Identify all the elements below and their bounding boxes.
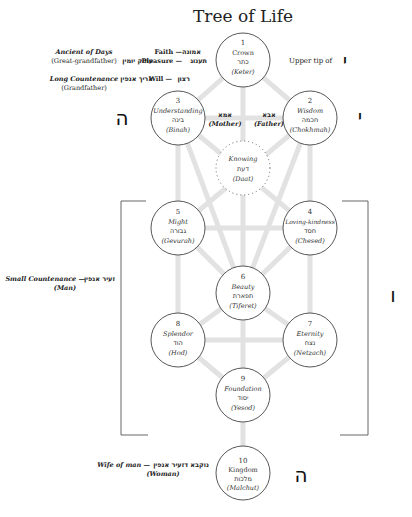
ancient-of-days-label: Ancient of Days [54,48,112,56]
sefirah-hebrew: יסוד [238,394,250,402]
sefirah-chesed[interactable]: 4 Loving-kindness חסד (Chesed) [283,201,337,255]
sefirah-hebrew: חכמה [302,116,318,124]
sefirah-hebrew: כתר [237,58,249,66]
man-label: (Man) [54,284,76,292]
sefirah-number: 7 [308,320,312,328]
sefirah-number: 9 [241,375,245,383]
sefirah-transliteration: (Gevurah) [161,237,195,245]
small-countenance-label: Small Countenance — [5,275,85,283]
sefirah-netzach[interactable]: 7 Eternity נצח (Netzach) [283,313,337,367]
mother-label: (Mother) [209,120,242,128]
small-countenance-hebrew-label: זעיר אנפין [84,275,116,283]
pleasure-hebrew-label: תענוג [190,57,207,65]
sefirah-name: Might [167,218,188,226]
sefirah-tiferet[interactable]: 6 Beauty תפארת (Tiferet) [216,266,270,320]
great-grandfather-label: (Great-grandfather) [51,57,117,65]
sefirah-transliteration: (Netzach) [294,349,327,357]
sefirah-number: 1 [241,39,245,47]
woman-label: (Woman) [146,470,179,478]
sefirah-name: Wisdom [297,107,323,115]
will-hebrew-label: רצון [177,75,190,83]
sefirah-daat[interactable]: Knowing דעת (Daat) [216,141,270,195]
left-bracket [121,201,148,435]
sefirah-hebrew: בינה [172,116,184,124]
sefirah-transliteration: (Tiferet) [229,302,257,310]
sefirah-name: Crown [232,49,254,57]
wife-of-man-label: Wife of man — [97,461,150,469]
sefirah-hod[interactable]: 8 Splendor הוד (Hod) [151,313,205,367]
diagram-title: Tree of Life [193,6,293,26]
sefirah-hebrew: נצח [305,339,316,347]
sefirah-name: Foundation [223,385,261,393]
upper-tip-label: Upper tip of [289,57,334,65]
wife-of-man-hebrew-label: נוקבא דזעיר אנפין [153,461,209,469]
sefirah-transliteration: (Daat) [233,175,254,183]
sefirah-transliteration: (Keter) [231,68,255,76]
sefirah-transliteration: (Chokhmah) [290,126,331,134]
will-label: Will — [148,75,173,83]
sefirah-keter[interactable]: 1 Crown כתר (Keter) [216,33,270,87]
right-bracket [340,201,368,435]
letter-yud-chokhmah: י [358,105,362,129]
sefirah-gevurah[interactable]: 5 Might גבורה (Gevurah) [151,201,205,255]
father-label: (Father) [254,120,284,128]
sefirah-hebrew: הוד [173,339,183,347]
sefirah-hebrew: דעת [237,165,249,173]
sefirah-transliteration: (Yesod) [231,404,256,412]
sefirah-number: 4 [308,208,313,216]
sefirah-malchut[interactable]: 10 Kingdom מלכות (Malchut) [216,446,270,500]
sefirah-name: Kingdom [228,466,258,474]
sefirah-hebrew: מלכות [234,475,252,483]
sefirah-number: 6 [241,273,246,281]
letter-yud-upper-tip: י [343,49,347,73]
sefirah-number: 8 [176,320,180,328]
sefirah-name: Understanding [153,107,202,115]
sefirah-transliteration: (Malchut) [227,484,260,492]
long-countenance-label: Long Countenance [49,75,118,83]
sefirah-transliteration: (Binah) [166,126,191,134]
sefirah-number: 2 [308,97,312,105]
sefirah-name: Eternity [296,330,324,338]
sefirah-name: Beauty [231,283,255,291]
grandfather-label: (Grandfather) [61,84,107,92]
faith-hebrew-label: אמונה [182,48,201,56]
sefirah-number: 3 [176,97,180,105]
letter-heh-malchut: ה [294,463,307,487]
tree-of-life-diagram: Tree of Life 1 Crown [0,0,412,517]
letter-vav-small-countenance: ו [390,283,395,307]
sefirah-name: Knowing [228,155,258,163]
pleasure-label: Pleasure — [142,57,183,65]
sefirah-chokhmah[interactable]: 2 Wisdom חכמה (Chokhmah) [283,91,337,145]
sefirah-hebrew: תפארת [233,292,254,300]
sefirah-transliteration: (Hod) [169,349,188,357]
sefirah-number: 5 [176,208,180,216]
letter-heh-binah: ה [115,106,128,130]
sefirah-binah[interactable]: 3 Understanding בינה (Binah) [151,91,205,145]
sefirah-hebrew: גבורה [170,227,186,235]
sefirah-number: 10 [239,457,248,465]
mother-hebrew-label: אמא [218,111,232,119]
faith-label: Faith — [155,48,183,56]
sefirah-hebrew: חסד [304,227,316,235]
sefirah-name: Splendor [163,330,194,338]
sefirah-transliteration: (Chesed) [295,237,325,245]
sefirah-yesod[interactable]: 9 Foundation יסוד (Yesod) [216,368,270,422]
father-hebrew-label: אבא [262,111,276,119]
sefirah-name: Loving-kindness [284,218,334,226]
